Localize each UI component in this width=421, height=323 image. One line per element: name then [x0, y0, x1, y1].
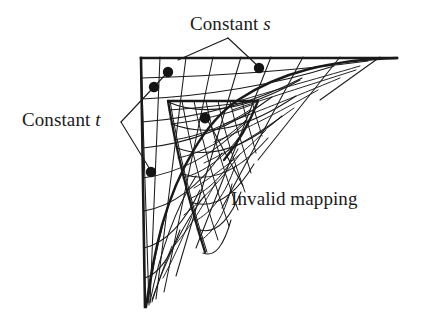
curve-main — [146, 58, 397, 307]
figure-canvas: Constant s Constant t Invalid mapping — [0, 0, 421, 323]
dot-top-right — [254, 63, 264, 73]
label-constant-t: Constant t — [22, 110, 101, 129]
leader-constant-t-lower — [121, 122, 151, 171]
db-1 — [232, 70, 356, 110]
label-constant-t-text: Constant — [22, 109, 95, 130]
label-constant-t-symbol: t — [95, 109, 100, 130]
boundary-left-edge — [141, 58, 145, 307]
dot-left-upper — [149, 82, 159, 92]
dot-upper-left-inner — [163, 67, 173, 77]
diagram-svg — [0, 0, 421, 323]
dot-left-lower — [146, 167, 156, 177]
label-constant-s: Constant s — [190, 14, 271, 33]
label-constant-s-symbol: s — [263, 13, 271, 34]
dot-center — [200, 113, 211, 124]
leader-constant-s-right — [228, 38, 259, 67]
label-invalid-mapping: Invalid mapping — [231, 189, 358, 208]
label-constant-s-text: Constant — [190, 13, 263, 34]
inner-hyperbolic-curve — [146, 58, 397, 307]
